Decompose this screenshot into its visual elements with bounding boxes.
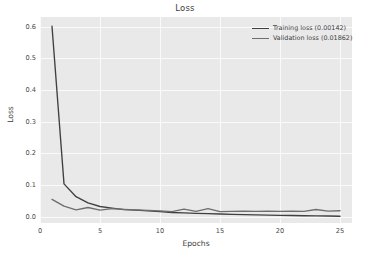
x-axis-label: Epochs — [40, 239, 352, 248]
series-container — [40, 17, 352, 223]
chart-legend: Training loss (0.00142)Validation loss (… — [249, 21, 355, 45]
y-tick-label: 0.6 — [2, 23, 36, 31]
x-tick-label: 20 — [265, 227, 295, 235]
x-axis-ticks: 0510152025 — [40, 227, 352, 239]
x-tick-label: 15 — [205, 227, 235, 235]
legend-line-swatch — [252, 38, 269, 39]
chart-title: Loss — [0, 3, 370, 13]
x-tick-label: 10 — [145, 227, 175, 235]
y-tick-label: 0.2 — [2, 149, 36, 157]
legend-item-label: Validation loss (0.01862) — [273, 34, 352, 42]
plot-area — [40, 17, 352, 223]
y-axis-label: Loss — [6, 92, 15, 138]
legend-item-label: Training loss (0.00142) — [273, 24, 346, 32]
x-tick-label: 25 — [325, 227, 355, 235]
x-tick-label: 5 — [85, 227, 115, 235]
y-tick-label: 0.1 — [2, 181, 36, 189]
legend-item[interactable]: Training loss (0.00142) — [252, 23, 352, 33]
y-tick-label: 0.5 — [2, 54, 36, 62]
legend-item[interactable]: Validation loss (0.01862) — [252, 33, 352, 43]
y-tick-label: 0.0 — [2, 213, 36, 221]
legend-line-swatch — [252, 28, 269, 29]
series-line-training-loss — [52, 26, 340, 216]
loss-chart-figure: Loss 0.00.10.20.30.40.50.6 0510152025 Ep… — [0, 0, 370, 267]
x-tick-label: 0 — [25, 227, 55, 235]
